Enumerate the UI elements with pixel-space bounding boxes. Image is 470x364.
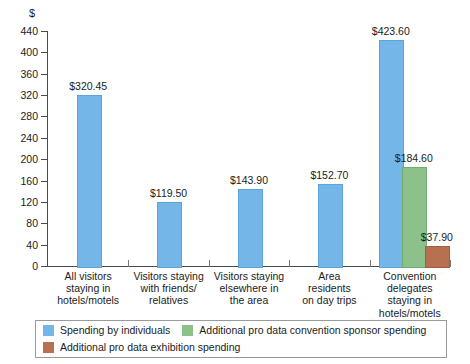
x-axis-separator-tick (289, 260, 290, 267)
legend-swatch-brown (43, 342, 54, 353)
y-axis-tick (41, 95, 47, 96)
y-axis-tick (41, 202, 47, 203)
bar[interactable] (238, 189, 263, 268)
y-axis-tick (41, 181, 47, 182)
y-axis-tick (41, 74, 47, 75)
x-axis-category-label: Visitors stayingwith friends/relatives (124, 270, 212, 307)
bar-value-label: $320.45 (58, 81, 118, 92)
y-axis-tick-label: 200 (4, 154, 38, 164)
y-axis-tick-label: 40 (4, 240, 38, 250)
y-axis-tick-label: 320 (4, 90, 38, 100)
legend-item-exhibition-spending: Additional pro data exhibition spending (43, 341, 240, 353)
x-axis-category-label: Visitors stayingelsewhere inthe area (205, 270, 293, 307)
category-label-line: on day trips (285, 294, 373, 306)
bar[interactable] (157, 202, 182, 268)
bar[interactable] (77, 95, 102, 268)
x-axis-separator-tick (128, 260, 129, 267)
y-axis-tick-label: 80 (4, 218, 38, 228)
legend-swatch-green (182, 325, 193, 336)
legend-item-convention-sponsor-spending: Additional pro data convention sponsor s… (182, 324, 426, 336)
bar-value-label: $184.60 (384, 153, 444, 164)
category-label-line: elsewhere in (205, 282, 293, 294)
bar[interactable] (402, 167, 427, 268)
category-label-line: staying in (366, 294, 454, 306)
legend-label-exhibition-spending: Additional pro data exhibition spending (60, 341, 240, 353)
category-label-line: delegates (366, 282, 454, 294)
chart-legend: Spending by individuals Additional pro d… (35, 320, 447, 358)
category-label-line: the area (205, 294, 293, 306)
y-axis-tick (41, 138, 47, 139)
y-axis-tick (41, 31, 47, 32)
x-axis-category-label: Conventiondelegatesstaying inhotels/mote… (366, 270, 454, 319)
y-axis-tick-label: 440 (4, 26, 38, 36)
y-axis-tick (41, 223, 47, 224)
bar[interactable] (318, 184, 343, 268)
bar-value-label: $423.60 (361, 26, 421, 37)
bar-value-label: $143.90 (219, 175, 279, 186)
bar[interactable] (425, 246, 450, 268)
y-axis-tick (41, 52, 47, 53)
bar-value-label: $119.50 (139, 188, 199, 199)
x-axis-separator-tick (209, 260, 210, 267)
category-label-line: relatives (124, 294, 212, 306)
bar-value-label: $37.90 (407, 232, 467, 243)
y-axis-tick-label: 120 (4, 197, 38, 207)
y-axis-tick-label: 160 (4, 176, 38, 186)
y-axis-unit-label: $ (29, 7, 35, 19)
category-label-line: staying in (44, 282, 132, 294)
y-axis-tick-label: 0 (4, 261, 38, 271)
y-axis-tick (41, 159, 47, 160)
y-axis-tick-label: 280 (4, 111, 38, 121)
category-label-line: hotels/motels (366, 307, 454, 319)
y-axis-tick-label: 240 (4, 133, 38, 143)
category-label-line: Area (285, 270, 373, 282)
category-label-line: hotels/motels (44, 294, 132, 306)
x-axis-separator-tick (370, 260, 371, 267)
legend-label-spending-by-individuals: Spending by individuals (60, 324, 170, 336)
category-label-line: All visitors (44, 270, 132, 282)
y-axis-line (47, 31, 48, 267)
category-label-line: residents (285, 282, 373, 294)
legend-row-2: Additional pro data exhibition spending (43, 341, 252, 353)
legend-row-1: Spending by individuals Additional pro d… (43, 324, 438, 336)
y-axis-tick-label: 400 (4, 47, 38, 57)
legend-label-convention-sponsor-spending: Additional pro data convention sponsor s… (199, 324, 426, 336)
y-axis-tick (41, 245, 47, 246)
category-label-line: Visitors staying (124, 270, 212, 282)
legend-item-spending-by-individuals: Spending by individuals (43, 324, 170, 336)
category-label-line: with friends/ (124, 282, 212, 294)
bar-value-label: $152.70 (299, 170, 359, 181)
legend-swatch-blue (43, 325, 54, 336)
category-label-line: Convention (366, 270, 454, 282)
y-axis-tick (41, 116, 47, 117)
x-axis-category-label: Arearesidentson day trips (285, 270, 373, 307)
y-axis-tick-label: 360 (4, 69, 38, 79)
y-axis-tick (41, 266, 47, 267)
x-axis-category-label: All visitorsstaying inhotels/motels (44, 270, 132, 307)
category-label-line: Visitors staying (205, 270, 293, 282)
bar-chart: $ 04080120160200240280320360400440 $320.… (0, 0, 470, 364)
